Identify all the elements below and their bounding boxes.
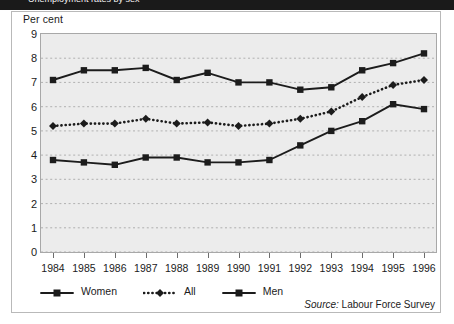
source-prefix: Source:: [304, 299, 338, 310]
y-tick-label: 2: [15, 198, 37, 210]
data-point-square: [143, 65, 149, 71]
data-point-diamond: [80, 120, 88, 128]
data-point-square: [266, 79, 272, 85]
x-tick-label: 1988: [165, 262, 188, 274]
data-point-diamond: [173, 120, 181, 128]
data-point-square: [143, 154, 149, 160]
y-tick-label: 0: [15, 246, 37, 258]
legend-item-all[interactable]: All: [143, 285, 196, 297]
x-tick-mark: [53, 253, 54, 258]
series-line: [53, 104, 424, 165]
data-point-diamond: [49, 122, 57, 130]
x-tick-mark: [115, 253, 116, 258]
plot-svg: [41, 34, 436, 252]
legend-item-men[interactable]: Men: [222, 285, 283, 297]
x-tick-mark: [300, 253, 301, 258]
x-tick-label: 1986: [103, 262, 126, 274]
data-point-square: [297, 87, 303, 93]
data-point-diamond: [204, 118, 212, 126]
data-point-square: [204, 70, 210, 76]
x-tick-mark: [208, 253, 209, 258]
y-tick-label: 1: [15, 222, 37, 234]
legend-label-women: Women: [81, 285, 117, 297]
data-point-square: [204, 159, 210, 165]
data-point-square: [235, 79, 241, 85]
data-point-diamond: [235, 122, 243, 130]
series-women: [50, 50, 427, 93]
x-tick-mark: [362, 253, 363, 258]
data-point-square: [297, 142, 303, 148]
x-tick-label: 1994: [351, 262, 374, 274]
x-tick-mark: [84, 253, 85, 258]
x-tick-mark: [393, 253, 394, 258]
series-line: [53, 80, 424, 126]
data-point-diamond: [420, 76, 428, 84]
x-tick-label: 1990: [227, 262, 250, 274]
data-point-square: [390, 60, 396, 66]
data-point-square: [328, 84, 334, 90]
data-point-square: [359, 67, 365, 73]
x-tick-mark: [331, 253, 332, 258]
plot-area: [40, 33, 437, 253]
x-tick-label: 1991: [258, 262, 281, 274]
y-tick-label: 7: [15, 76, 37, 88]
y-axis-tick-labels: 0123456789: [11, 33, 37, 253]
data-point-square: [235, 159, 241, 165]
legend-swatch-women: [40, 285, 74, 297]
data-point-square: [50, 77, 56, 83]
x-tick-mark: [146, 253, 147, 258]
chart-legend: Women All Men: [40, 282, 309, 300]
legend-item-women[interactable]: Women: [40, 285, 117, 297]
data-point-square: [81, 159, 87, 165]
legend-label-all: All: [184, 285, 196, 297]
title-banner: Unemployment rates by sex: [0, 0, 454, 10]
data-point-diamond: [358, 93, 366, 101]
y-tick-label: 4: [15, 149, 37, 161]
data-point-square: [81, 67, 87, 73]
x-tick-label: 1987: [134, 262, 157, 274]
legend-swatch-men: [222, 285, 256, 297]
data-point-square: [359, 118, 365, 124]
title-banner-text: Unemployment rates by sex: [28, 0, 140, 4]
source-note: Source: Labour Force Survey: [304, 299, 435, 310]
y-tick-label: 3: [15, 173, 37, 185]
data-point-diamond: [296, 115, 304, 123]
x-axis-tick-labels: 1984198519861987198819891990199119921993…: [40, 253, 437, 279]
y-tick-label: 9: [15, 28, 37, 40]
x-tick-label: 1995: [381, 262, 404, 274]
data-point-diamond: [111, 120, 119, 128]
data-point-square: [50, 157, 56, 163]
data-point-square: [390, 101, 396, 107]
x-tick-label: 1989: [196, 262, 219, 274]
data-point-square: [112, 162, 118, 168]
data-point-square: [174, 154, 180, 160]
data-point-diamond: [142, 115, 150, 123]
gridlines: [41, 58, 436, 252]
legend-swatch-all: [143, 285, 177, 297]
x-tick-label: 1984: [41, 262, 64, 274]
y-axis-label: Per cent: [23, 13, 63, 25]
x-tick-label: 1992: [289, 262, 312, 274]
data-point-diamond: [265, 120, 273, 128]
data-point-square: [174, 77, 180, 83]
y-tick-label: 8: [15, 52, 37, 64]
x-tick-mark: [424, 253, 425, 258]
data-point-square: [112, 67, 118, 73]
x-tick-label: 1985: [72, 262, 95, 274]
source-text: Labour Force Survey: [342, 299, 435, 310]
x-tick-mark: [239, 253, 240, 258]
x-tick-label: 1993: [320, 262, 343, 274]
x-tick-mark: [269, 253, 270, 258]
series-lines: [49, 50, 428, 168]
legend-label-men: Men: [263, 285, 283, 297]
y-tick-label: 5: [15, 125, 37, 137]
x-tick-mark: [177, 253, 178, 258]
data-point-square: [328, 128, 334, 134]
data-point-square: [421, 50, 427, 56]
data-point-square: [421, 106, 427, 112]
data-point-square: [266, 157, 272, 163]
y-tick-label: 6: [15, 101, 37, 113]
series-men: [50, 101, 427, 168]
chart-figure: Unemployment rates by sex Per cent 01234…: [0, 0, 454, 324]
x-tick-label: 1996: [412, 262, 435, 274]
